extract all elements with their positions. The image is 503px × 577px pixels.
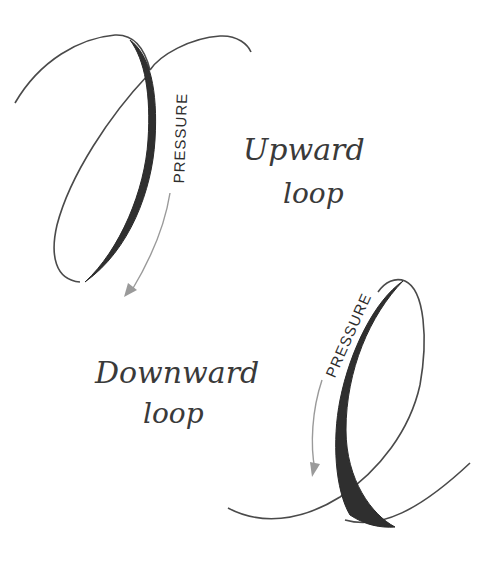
upward-pressure-label: PRESSURE — [170, 93, 190, 184]
loop-drawings — [0, 0, 503, 577]
upward-loop-caption-line2: loop — [283, 180, 344, 208]
downward-loop-caption-line2: loop — [143, 400, 204, 428]
illustration-canvas: PRESSURE PRESSURE Upward loop Downward l… — [0, 0, 503, 577]
upward-loop-drawing — [15, 35, 251, 297]
downward-loop-caption-line1: Downward — [95, 358, 259, 388]
upward-loop-caption-line1: Upward — [243, 135, 365, 165]
